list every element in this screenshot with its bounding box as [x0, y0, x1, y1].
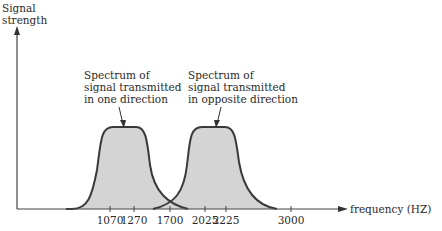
annotation-left-line1: Spectrum of [84, 69, 182, 81]
y-axis-arrow-icon [14, 26, 20, 35]
y-axis-label: Signal strength [2, 2, 47, 26]
tick-label-1270: 1270 [121, 214, 148, 226]
tick-label-1700: 1700 [157, 214, 184, 226]
x-axis-arrow-icon [338, 206, 348, 212]
annotation-right-line2: signal transmitted [188, 81, 298, 93]
x-axis-label: frequency (HZ) [350, 203, 431, 215]
annotation-right-line1: Spectrum of [188, 69, 298, 81]
tick-label-2225: 2225 [213, 214, 240, 226]
y-label-line1: Signal [2, 2, 47, 14]
annotation-left: Spectrum of signal transmitted in one di… [84, 69, 182, 105]
tick-label-3000: 3000 [278, 214, 305, 226]
spectrum-diagram [0, 0, 442, 231]
annotation-right: Spectrum of signal transmitted in opposi… [188, 69, 298, 105]
annotation-right-line3: in opposite direction [188, 93, 298, 105]
annotation-left-line2: signal transmitted [84, 81, 182, 93]
y-label-line2: strength [2, 14, 47, 26]
annotation-left-line3: in one direction [84, 93, 182, 105]
tick-label-1070: 1070 [97, 214, 124, 226]
